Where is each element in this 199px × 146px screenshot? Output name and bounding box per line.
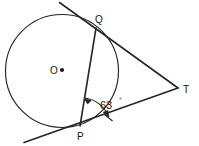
vertex-label-p: P	[77, 131, 84, 142]
tangent-line-through-p	[24, 88, 178, 143]
vertex-label-t: T	[183, 84, 189, 95]
angle-measure-value: 63	[100, 99, 112, 111]
geometry-figure: O Q P T 63 °	[0, 0, 199, 146]
center-point-dot	[60, 68, 64, 72]
vertex-label-q: Q	[95, 14, 103, 25]
angle-degree-symbol: °	[119, 97, 122, 104]
geometry-diagram-svg: O Q P T 63 °	[0, 0, 199, 146]
chord-segment-qp	[80, 28, 96, 126]
center-label-o: O	[50, 65, 58, 76]
